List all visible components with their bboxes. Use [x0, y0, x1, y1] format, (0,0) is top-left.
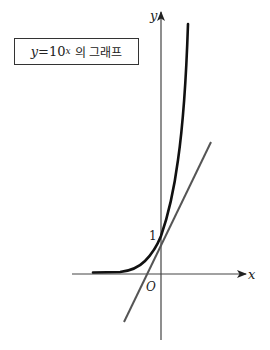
y-intercept-label: 1	[149, 229, 157, 243]
graph-canvas: y x O 1	[0, 0, 270, 350]
tangent-line	[124, 142, 211, 322]
origin-label: O	[146, 280, 156, 294]
y-axis-label: y	[149, 8, 158, 23]
exponential-curve	[93, 24, 188, 273]
x-axis-label: x	[248, 267, 256, 282]
